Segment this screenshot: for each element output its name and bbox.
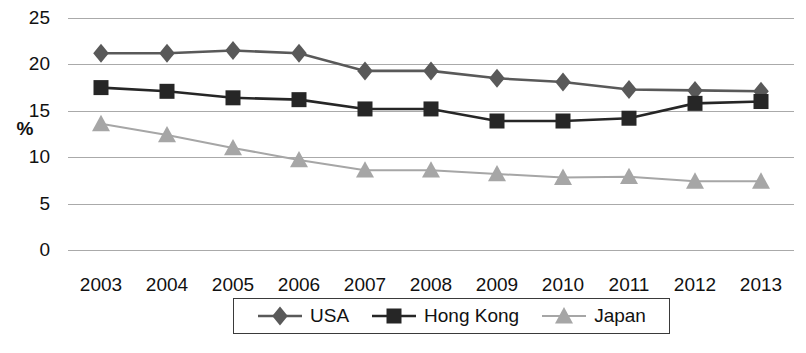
x-axis-tick-label: 2010 bbox=[528, 274, 598, 296]
data-point-marker bbox=[292, 92, 307, 107]
x-axis-tick-label: 2003 bbox=[66, 274, 136, 296]
data-point-marker bbox=[94, 80, 109, 95]
y-axis-tick-label: 20 bbox=[10, 53, 50, 75]
x-axis-tick-label: 2013 bbox=[726, 274, 796, 296]
x-axis-tick-label: 2007 bbox=[330, 274, 400, 296]
series-usa bbox=[93, 41, 769, 101]
x-axis-tick-label: 2011 bbox=[594, 274, 664, 296]
legend-label: Hong Kong bbox=[424, 305, 519, 327]
data-point-marker bbox=[160, 84, 175, 99]
data-point-marker bbox=[688, 96, 703, 111]
legend-marker-square-icon bbox=[371, 306, 417, 326]
series-layer bbox=[68, 18, 794, 250]
data-point-marker bbox=[93, 44, 109, 63]
data-point-marker bbox=[621, 80, 637, 99]
y-axis-tick-label: 0 bbox=[10, 239, 50, 261]
data-point-marker bbox=[357, 61, 373, 80]
data-point-marker bbox=[291, 44, 307, 63]
legend-marker-triangle-icon bbox=[541, 306, 587, 326]
y-axis-tick-label: 5 bbox=[10, 193, 50, 215]
data-point-marker bbox=[556, 114, 571, 129]
data-point-marker bbox=[226, 90, 241, 105]
data-point-marker bbox=[159, 44, 175, 63]
x-axis-tick-label: 2012 bbox=[660, 274, 730, 296]
x-axis-tick-label: 2004 bbox=[132, 274, 202, 296]
y-axis-tick-label: 10 bbox=[10, 146, 50, 168]
data-point-marker bbox=[92, 115, 110, 131]
plot-area: 0510152025 20032004200520062007200820092… bbox=[68, 18, 794, 250]
legend-label: Japan bbox=[594, 305, 646, 327]
data-point-marker bbox=[622, 111, 637, 126]
data-point-marker bbox=[490, 114, 505, 129]
x-axis-tick-label: 2009 bbox=[462, 274, 532, 296]
data-point-marker bbox=[555, 73, 571, 92]
legend-entry-japan[interactable]: Japan bbox=[541, 305, 646, 327]
series-hong-kong bbox=[94, 80, 769, 128]
legend-marker-diamond-icon bbox=[257, 306, 303, 326]
x-axis-tick-label: 2008 bbox=[396, 274, 466, 296]
data-point-marker bbox=[754, 94, 769, 109]
line-chart: % 0510152025 200320042005200620072008200… bbox=[0, 0, 806, 353]
y-axis-tick-label: 15 bbox=[10, 100, 50, 122]
legend-entry-hong-kong[interactable]: Hong Kong bbox=[371, 305, 519, 327]
x-axis-tick-label: 2006 bbox=[264, 274, 334, 296]
series-japan bbox=[92, 115, 770, 189]
data-point-marker bbox=[225, 41, 241, 60]
legend: USAHong KongJapan bbox=[233, 298, 670, 334]
x-axis-tick-label: 2005 bbox=[198, 274, 268, 296]
data-point-marker bbox=[423, 61, 439, 80]
gridline bbox=[68, 250, 794, 251]
data-point-marker bbox=[424, 101, 439, 116]
legend-entry-usa[interactable]: USA bbox=[257, 305, 349, 327]
data-point-marker bbox=[358, 101, 373, 116]
data-point-marker bbox=[489, 69, 505, 88]
legend-label: USA bbox=[310, 305, 349, 327]
y-axis-tick-label: 25 bbox=[10, 7, 50, 29]
